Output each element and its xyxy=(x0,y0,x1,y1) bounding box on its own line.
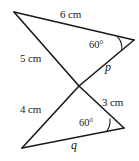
angle-arc-lower-icon xyxy=(107,119,110,131)
angle-arc-upper-icon xyxy=(118,37,122,50)
label-side-left-lower: 4 cm xyxy=(20,104,41,115)
label-angle-lower: 60° xyxy=(79,118,93,129)
label-angle-upper: 60° xyxy=(89,40,103,51)
label-side-right-lower: 3 cm xyxy=(102,97,123,108)
geometry-figure: 6 cm 5 cm 4 cm 3 cm 60° 60° p q xyxy=(0,0,139,161)
segment-left-upper-edge xyxy=(14,12,79,86)
label-unknown-q: q xyxy=(71,139,77,151)
label-side-top: 6 cm xyxy=(60,9,81,20)
label-unknown-p: p xyxy=(105,61,111,73)
label-side-left-upper: 5 cm xyxy=(20,53,41,64)
figure-canvas xyxy=(0,0,139,161)
